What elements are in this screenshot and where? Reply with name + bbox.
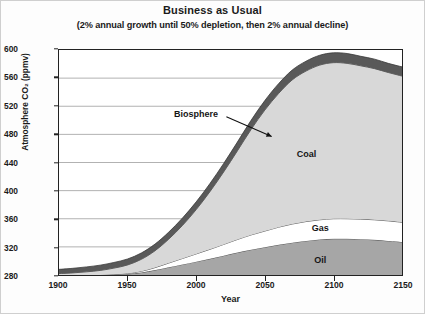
x-tick-label: 2050 [240,280,290,290]
x-tick-label: 2000 [171,280,221,290]
plot-area [58,49,403,276]
y-tick-label: 440 [0,158,18,168]
y-tick-label: 400 [0,186,18,196]
stacked-area-svg [59,50,402,275]
series-label-biosphere: Biosphere [174,109,218,119]
x-tick-label: 1950 [102,280,152,290]
series-label-oil: Oil [314,255,326,265]
chart-figure: Business as Usual (2% annual growth unti… [0,0,425,314]
series-label-gas: Gas [312,223,329,233]
y-tick-label: 520 [0,101,18,111]
chart-subtitle: (2% annual growth until 50% depletion, t… [1,20,424,30]
x-tick-mark [196,276,197,281]
y-tick-label: 280 [0,271,18,281]
y-tick-label: 600 [0,44,18,54]
y-axis-label: Atmosphere CO₂ (ppmv) [20,32,30,172]
y-tick-label: 320 [0,243,18,253]
y-tick-label: 480 [0,129,18,139]
x-tick-label: 2100 [309,280,359,290]
x-tick-label: 1900 [33,280,83,290]
y-tick-label: 560 [0,72,18,82]
chart-title: Business as Usual [1,4,424,16]
x-axis-label: Year [58,294,403,304]
y-tick-label: 360 [0,214,18,224]
x-tick-label: 2150 [378,280,425,290]
x-tick-mark [334,276,335,281]
x-tick-mark [127,276,128,281]
x-tick-mark [265,276,266,281]
series-label-coal: Coal [297,149,317,159]
